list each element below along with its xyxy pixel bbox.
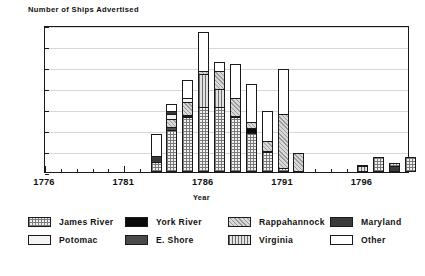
- bar-segment-james: [373, 157, 384, 172]
- legend-swatch-james: [28, 217, 51, 227]
- bar-segment-rappahannock: [262, 141, 273, 152]
- bar-1796[interactable]: [357, 164, 368, 172]
- legend-swatch-eshore: [125, 235, 148, 245]
- bar-1798[interactable]: [389, 162, 400, 173]
- y-tick-mark: [45, 90, 49, 91]
- legend-label-james: James River: [59, 217, 114, 227]
- legend-swatch-rappahannock: [228, 217, 251, 227]
- bar-1785[interactable]: [182, 75, 193, 172]
- bar-segment-rappahannock: [293, 153, 304, 172]
- gridline: [45, 48, 408, 49]
- bar-segment-james: [182, 117, 193, 172]
- legend-swatch-virginia: [228, 235, 251, 245]
- bar-segment-james: [214, 107, 225, 172]
- bar-segment-james: [262, 152, 273, 172]
- x-tick-mark-major: [124, 166, 125, 172]
- legend-swatch-other: [330, 235, 353, 245]
- x-tick-mark-minor: [140, 169, 141, 172]
- bar-1789[interactable]: [246, 84, 257, 172]
- bar-1790[interactable]: [262, 111, 273, 172]
- x-tick-label: 1791: [271, 177, 292, 187]
- legend-swatch-york: [125, 217, 148, 227]
- bar-1792[interactable]: [293, 153, 304, 172]
- bar-segment-rappahannock: [230, 98, 241, 117]
- legend-item-maryland[interactable]: Maryland: [330, 217, 402, 227]
- bar-1788[interactable]: [230, 63, 241, 172]
- bar-segment-rappahannock: [246, 122, 257, 129]
- gridline: [45, 153, 408, 154]
- bar-segment-rappahannock: [182, 102, 193, 117]
- legend-label-eshore: E. Shore: [156, 235, 194, 245]
- bar-segment-other: [151, 134, 162, 157]
- gridline: [45, 111, 408, 112]
- bar-segment-james: [230, 117, 241, 172]
- x-tick-mark-minor: [77, 169, 78, 172]
- bar-segment-rappahannock: [278, 114, 289, 169]
- legend-swatch-potomac: [28, 235, 51, 245]
- bar-segment-james: [166, 130, 177, 172]
- bar-1786[interactable]: [198, 29, 209, 172]
- bar-segment-rappahannock: [166, 119, 177, 127]
- bar-segment-james: [405, 157, 416, 172]
- bar-segment-other: [262, 111, 273, 142]
- legend-label-york: York River: [156, 217, 202, 227]
- legend-label-virginia: Virginia: [259, 235, 293, 245]
- bar-1799[interactable]: [405, 157, 416, 172]
- x-tick-mark-minor: [61, 169, 62, 172]
- x-tick-mark-minor: [331, 169, 332, 172]
- bar-segment-james: [389, 163, 400, 167]
- bar-segment-other: [230, 64, 241, 100]
- bar-segment-virginia: [214, 89, 225, 108]
- legend-label-potomac: Potomac: [59, 235, 98, 245]
- legend-item-potomac[interactable]: Potomac: [28, 235, 98, 245]
- x-axis-title: Year: [193, 193, 210, 202]
- gridline: [45, 27, 408, 28]
- gridline: [45, 132, 408, 133]
- x-tick-label: 1781: [113, 177, 134, 187]
- bar-1797[interactable]: [373, 157, 384, 172]
- chart-legend: James RiverYork RiverRappahannockMarylan…: [0, 213, 425, 261]
- bar-segment-other: [246, 84, 257, 123]
- bar-segment-other: [278, 69, 289, 115]
- legend-label-other: Other: [361, 235, 386, 245]
- x-tick-mark-major: [45, 166, 46, 172]
- plot-area: 05101520253035: [44, 26, 409, 173]
- bar-segment-james: [151, 162, 162, 173]
- legend-item-eshore[interactable]: E. Shore: [125, 235, 194, 245]
- legend-item-james[interactable]: James River: [28, 217, 114, 227]
- legend-item-virginia[interactable]: Virginia: [228, 235, 293, 245]
- bar-1791[interactable]: [278, 67, 289, 172]
- x-tick-label: 1786: [192, 177, 213, 187]
- chart-root: Number of Ships Advertised Year 05101520…: [0, 0, 425, 276]
- y-tick-mark: [45, 132, 49, 133]
- x-tick-label: 1776: [33, 177, 54, 187]
- y-tick-mark: [45, 27, 49, 28]
- legend-swatch-maryland: [330, 217, 353, 227]
- bar-1787[interactable]: [214, 59, 225, 172]
- y-tick-mark: [45, 153, 49, 154]
- bar-segment-rappahannock: [214, 71, 225, 90]
- bar-segment-james: [198, 107, 209, 172]
- x-tick-mark-minor: [93, 169, 94, 172]
- bar-1784[interactable]: [166, 99, 177, 173]
- legend-item-other[interactable]: Other: [330, 235, 386, 245]
- bar-1783[interactable]: [151, 132, 162, 172]
- legend-label-rappahannock: Rappahannock: [259, 217, 325, 227]
- y-tick-mark: [45, 111, 49, 112]
- bar-segment-other: [357, 165, 368, 167]
- bar-segment-james: [246, 133, 257, 172]
- bar-segment-other: [198, 32, 209, 72]
- legend-item-rappahannock[interactable]: Rappahannock: [228, 217, 325, 227]
- y-axis-title: Number of Ships Advertised: [28, 5, 139, 14]
- x-tick-mark-minor: [108, 169, 109, 172]
- y-tick-mark: [45, 174, 49, 175]
- y-tick-mark: [45, 48, 49, 49]
- legend-label-maryland: Maryland: [361, 217, 402, 227]
- legend-item-york[interactable]: York River: [125, 217, 202, 227]
- y-tick-mark: [45, 69, 49, 70]
- bar-segment-other: [182, 80, 193, 99]
- x-tick-mark-minor: [347, 169, 348, 172]
- gridline: [45, 69, 408, 70]
- bar-segment-virginia: [198, 74, 209, 108]
- gridline: [45, 90, 408, 91]
